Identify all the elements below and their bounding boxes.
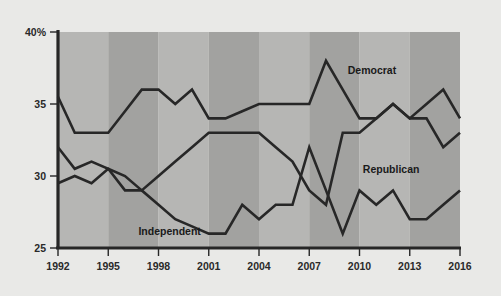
x-axis-label-1998: 1998 (147, 260, 171, 272)
chart-canvas: 40%353025 199219951998200120042007201020… (0, 0, 501, 296)
x-axis-label-2004: 2004 (247, 260, 271, 272)
plot-band-1992-1995 (58, 32, 108, 248)
series-annotation-republican: Republican (363, 163, 420, 175)
x-axis-label-2001: 2001 (197, 260, 221, 272)
y-axis-label-25: 25 (34, 242, 46, 254)
plot-bands (58, 32, 460, 248)
y-axis-tick-labels: 40%353025 (25, 26, 47, 254)
x-axis-ticks (58, 249, 460, 256)
x-axis-label-2007: 2007 (298, 260, 322, 272)
y-axis-label-30: 30 (34, 170, 46, 182)
plot-band-2001-2004 (209, 32, 259, 248)
x-axis-label-1992: 1992 (46, 260, 70, 272)
x-axis-label-2013: 2013 (398, 260, 422, 272)
series-annotation-democrat: Democrat (348, 64, 397, 76)
y-axis-label-40: 40% (25, 26, 47, 38)
series-annotation-independent: Independent (138, 225, 201, 237)
plot-band-1995-1998 (108, 32, 158, 248)
x-axis-label-1995: 1995 (97, 260, 121, 272)
y-axis-label-35: 35 (34, 98, 46, 110)
line-chart: 40%353025 199219951998200120042007201020… (0, 0, 501, 296)
y-axis-ticks (50, 32, 57, 248)
x-axis-label-2016: 2016 (448, 260, 472, 272)
x-axis-label-2010: 2010 (348, 260, 372, 272)
x-axis-tick-labels: 199219951998200120042007201020132016 (46, 260, 472, 272)
